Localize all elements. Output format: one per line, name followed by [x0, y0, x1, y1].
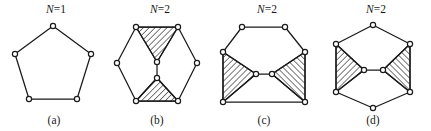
- vertex-node: [26, 96, 31, 101]
- vertex-node: [12, 51, 17, 56]
- vertex-node: [114, 60, 119, 65]
- vertex-node: [302, 99, 307, 104]
- vertex-node: [154, 75, 159, 80]
- n-value-label: N=2: [256, 3, 277, 15]
- n-number: 2: [271, 3, 277, 15]
- vertex-node: [361, 67, 366, 72]
- n-number: 2: [380, 3, 386, 15]
- n-number: 2: [164, 3, 170, 15]
- vertex-node: [269, 71, 274, 76]
- vertex-node: [239, 24, 244, 29]
- vertex-node: [302, 49, 307, 54]
- figure-root: N=1(a)N=2(b)N=2(c)N=2(d): [0, 0, 431, 131]
- vertex-node: [220, 99, 225, 104]
- vertex-node: [380, 67, 385, 72]
- vertex-node: [333, 89, 338, 94]
- panel-b: N=2(b): [105, 0, 209, 131]
- panel-d: N=2(d): [319, 0, 431, 131]
- n-value-label: N=1: [45, 3, 66, 15]
- vertex-node: [194, 60, 199, 65]
- vertex-node: [175, 98, 180, 103]
- panel-a: N=1(a): [0, 0, 105, 131]
- vertex-node: [88, 51, 93, 56]
- vertex-node: [282, 24, 287, 29]
- n-number: 1: [60, 3, 66, 15]
- vertex-node: [74, 96, 79, 101]
- n-value-label: N=2: [365, 3, 386, 15]
- vertex-node: [50, 23, 55, 28]
- polygon-face: [15, 26, 91, 99]
- panel-c: N=2(c): [209, 0, 319, 131]
- n-value-label: N=2: [149, 3, 170, 15]
- vertex-node: [253, 71, 258, 76]
- vertex-node: [154, 59, 159, 64]
- vertex-node: [133, 98, 138, 103]
- panel-caption: (b): [150, 114, 164, 127]
- vertex-node: [370, 22, 375, 27]
- vertex-node: [220, 49, 225, 54]
- vertex-node: [133, 24, 138, 29]
- panel-caption: (a): [48, 114, 61, 127]
- vertex-node: [370, 105, 375, 110]
- vertex-node: [175, 24, 180, 29]
- vertex-node: [333, 41, 338, 46]
- panel-caption: (d): [366, 114, 380, 127]
- vertex-node: [407, 41, 412, 46]
- vertex-node: [407, 89, 412, 94]
- panel-caption: (c): [258, 114, 271, 127]
